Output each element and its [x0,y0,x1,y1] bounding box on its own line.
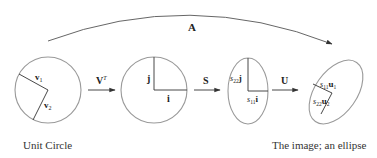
label-i: i [167,93,170,104]
transform-label-a: A [188,21,196,33]
stage-rotated-ellipse: s11u1 s22u2 [298,50,374,133]
transform-label-u: U [281,75,288,86]
label-v1: v1 [35,72,43,83]
svd-diagram: A v1 v2 VT j i S s22j s11i U [0,0,377,158]
label-v2: v2 [44,100,52,111]
label-s11u1: s11u1 [320,79,336,90]
transform-label-vt: VT [96,75,107,86]
transform-arrow-a: A [48,15,332,44]
caption-image-ellipse: The image; an ellipse [272,139,366,151]
stage-unit-circle: v1 v2 [15,57,81,123]
transform-arrow-s: S [194,75,220,90]
transform-label-s: S [203,75,209,86]
vector-v1 [19,74,48,90]
label-j: j [146,73,150,84]
caption-unit-circle: Unit Circle [23,139,72,151]
stage-scaled-ellipse: s22j s11i [228,58,268,124]
label-s22j: s22j [230,73,242,84]
stage-rotated-circle: j i [121,57,187,123]
label-s11i: s11i [247,94,258,105]
label-s22u2: s22u2 [313,96,330,107]
transform-arrow-u: U [272,75,298,90]
transform-arrow-vt: VT [88,75,115,90]
image-ellipse-shape [298,50,374,133]
